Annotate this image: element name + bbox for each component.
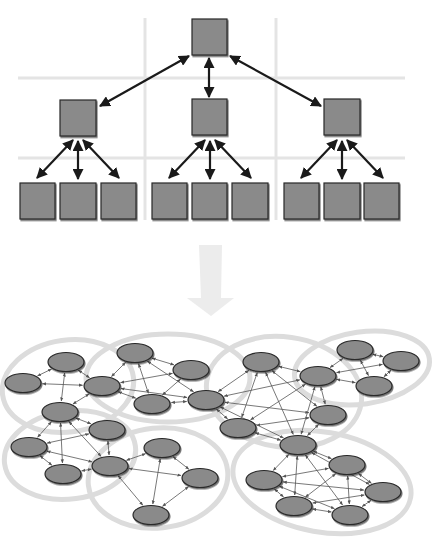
network-link	[129, 469, 181, 476]
network-node-J	[11, 438, 47, 457]
hierarchy-node-mid-right	[324, 99, 360, 135]
network-link	[384, 370, 391, 376]
network-link	[273, 455, 288, 471]
network-node-K	[45, 465, 81, 484]
hierarchy-node-leaf-2	[60, 183, 96, 219]
hierarchy-node-leaf-4	[152, 183, 187, 219]
network-link	[283, 468, 329, 476]
network-node-G	[134, 395, 170, 414]
network-node-Q	[300, 367, 336, 386]
hierarchy-node-leaf-6	[232, 183, 268, 219]
hierarchy-to-network-diagram	[0, 0, 438, 549]
network-link	[42, 384, 82, 386]
network-link	[313, 495, 365, 503]
hierarchy-node-mid-left	[60, 100, 96, 136]
network-node-U	[310, 406, 346, 425]
network-link	[163, 487, 189, 507]
network-node-L	[92, 457, 128, 476]
hierarchy-node-leaf-9	[364, 183, 399, 219]
network-link	[40, 456, 52, 465]
network-link	[139, 364, 149, 393]
network-node-E	[117, 344, 153, 363]
network-node-R	[337, 341, 373, 360]
hierarchy-node-leaf-3	[101, 183, 136, 219]
network-link	[348, 476, 350, 504]
hierarchy-node-leaf-8	[324, 183, 360, 219]
network-node-Y	[246, 471, 282, 490]
network-link	[111, 362, 125, 376]
network-node-AB	[332, 506, 368, 525]
network-node-V	[220, 419, 256, 438]
network-node-C	[84, 377, 120, 396]
network-node-Z	[365, 483, 401, 502]
network-link	[61, 423, 63, 463]
network-node-S	[383, 352, 419, 371]
network-node-I	[89, 421, 125, 440]
network-link	[121, 373, 173, 382]
hierarchy-node-leaf-7	[284, 183, 319, 219]
network-link	[225, 402, 309, 412]
down-arrow-icon	[187, 245, 234, 316]
network-link	[38, 369, 52, 376]
network-link	[171, 401, 186, 402]
network-link	[337, 379, 356, 382]
network-node-D	[42, 403, 78, 422]
hierarchy-nodes	[20, 19, 399, 219]
network-node-AA	[276, 497, 312, 516]
network-link	[73, 394, 89, 404]
hierarchy-node-leaf-1	[20, 183, 55, 219]
network-node-P	[243, 353, 279, 372]
network-link	[153, 459, 160, 504]
network-link	[224, 380, 300, 396]
transition-arrow	[187, 245, 234, 316]
network-node-O	[133, 506, 169, 525]
network-node-A	[48, 353, 84, 372]
network-node-N	[182, 469, 218, 488]
network-link	[76, 418, 91, 424]
network-link	[162, 379, 180, 395]
network-link	[61, 373, 64, 401]
network-link	[330, 358, 343, 367]
network-node-F	[173, 361, 209, 380]
network-link	[313, 509, 332, 512]
network-link	[152, 358, 174, 365]
hierarchy-node-leaf-5	[192, 183, 227, 219]
network-link	[218, 370, 249, 391]
hierarchy-node-root	[192, 19, 227, 55]
network-node-W	[280, 436, 316, 455]
network-link	[118, 476, 143, 505]
network-link	[373, 354, 383, 356]
hierarchy-node-mid-center	[192, 99, 227, 135]
network-link	[362, 500, 371, 506]
network-link	[337, 364, 383, 372]
network-node-M	[144, 439, 180, 458]
network-link	[295, 456, 298, 495]
network-node-B	[5, 374, 41, 393]
network-link	[173, 457, 189, 469]
network-node-H	[188, 391, 224, 410]
network-link	[251, 384, 306, 420]
network-node-X	[329, 456, 365, 475]
network-link	[47, 434, 89, 443]
network-link	[274, 489, 283, 497]
diagram-canvas	[0, 0, 438, 549]
network-node-T	[356, 377, 392, 396]
network-link	[257, 418, 309, 426]
network-link	[47, 451, 92, 462]
